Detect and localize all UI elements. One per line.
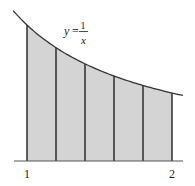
tick-label-1: 1 xyxy=(24,167,30,181)
shaded-area xyxy=(27,25,172,161)
riemann-figure: y = 1 x 1 2 xyxy=(0,0,195,186)
label-numerator: 1 xyxy=(81,20,86,31)
tick-label-2: 2 xyxy=(169,167,175,181)
label-denominator: x xyxy=(80,34,86,46)
label-equals: = xyxy=(72,24,79,38)
label-y: y xyxy=(63,24,70,38)
curve-label: y = 1 x xyxy=(63,20,88,46)
